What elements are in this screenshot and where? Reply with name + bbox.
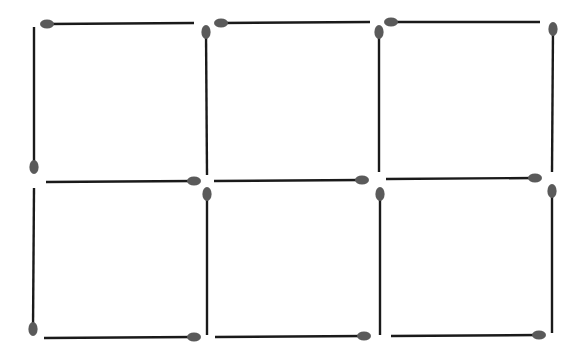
matchstick-body bbox=[391, 335, 539, 336]
matchstick-body bbox=[214, 180, 362, 181]
matchstick-v-upper-0[interactable] bbox=[29, 27, 38, 174]
matchstick-h-top-1[interactable] bbox=[40, 19, 194, 28]
match-head-icon bbox=[29, 160, 38, 174]
matchstick-body bbox=[46, 181, 194, 182]
match-head-icon bbox=[187, 176, 201, 185]
match-head-icon bbox=[214, 18, 228, 27]
match-head-icon bbox=[375, 187, 384, 201]
matchstick-body bbox=[386, 178, 535, 179]
matchstick-body bbox=[221, 22, 370, 23]
match-head-icon bbox=[202, 187, 211, 201]
matchstick-body bbox=[552, 29, 553, 172]
matchstick-h-bot-2[interactable] bbox=[215, 331, 371, 340]
matchstick-body bbox=[47, 23, 194, 24]
match-head-icon bbox=[357, 331, 371, 340]
matchstick-body bbox=[206, 32, 207, 175]
matchstick-h-bot-3[interactable] bbox=[391, 330, 546, 339]
matchstick-puzzle: Matchstick puzzle: 17 matchsticks formin… bbox=[0, 0, 580, 353]
match-head-icon bbox=[28, 322, 37, 336]
matchstick-h-mid-3[interactable] bbox=[386, 173, 542, 182]
matchstick-h-mid-1[interactable] bbox=[46, 176, 201, 185]
matchstick-h-top-3[interactable] bbox=[384, 17, 540, 26]
matchstick-body bbox=[215, 336, 364, 337]
matchstick-v-lower-2[interactable] bbox=[375, 187, 384, 335]
matchstick-body bbox=[44, 337, 194, 338]
match-head-icon bbox=[40, 19, 54, 28]
matchstick-h-top-2[interactable] bbox=[214, 18, 370, 27]
matchstick-v-upper-3[interactable] bbox=[548, 22, 557, 172]
match-head-icon bbox=[201, 25, 210, 39]
matchstick-v-upper-1[interactable] bbox=[201, 25, 210, 175]
matchstick-v-lower-1[interactable] bbox=[202, 187, 211, 335]
matchstick-v-lower-3[interactable] bbox=[547, 184, 556, 333]
match-head-icon bbox=[384, 17, 398, 26]
matchstick-body bbox=[33, 188, 34, 329]
match-head-icon bbox=[528, 173, 542, 182]
match-head-icon bbox=[532, 330, 546, 339]
matchstick-v-upper-2[interactable] bbox=[374, 25, 383, 172]
matchstick-h-mid-2[interactable] bbox=[214, 175, 369, 184]
matchstick-h-bot-1[interactable] bbox=[44, 332, 201, 341]
match-head-icon bbox=[187, 332, 201, 341]
matchstick-grid: Matchstick puzzle: 17 matchsticks formin… bbox=[0, 0, 580, 353]
match-head-icon bbox=[355, 175, 369, 184]
match-head-icon bbox=[547, 184, 556, 198]
match-head-icon bbox=[548, 22, 557, 36]
matchstick-v-lower-0[interactable] bbox=[28, 188, 37, 336]
match-head-icon bbox=[374, 25, 383, 39]
